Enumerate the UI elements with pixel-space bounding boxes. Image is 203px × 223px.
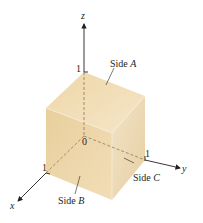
y-axis-label: y xyxy=(181,163,187,174)
y-tick-label: 1 xyxy=(145,148,150,159)
side-a-label: Side A xyxy=(110,58,137,69)
x-axis xyxy=(18,173,46,201)
side-b-label: Side B xyxy=(58,195,84,206)
z-axis-label: z xyxy=(80,10,85,21)
side-c-label: Side C xyxy=(133,172,160,183)
x-axis-label: x xyxy=(9,200,15,211)
origin-label: 0 xyxy=(82,136,87,147)
y-axis xyxy=(145,160,180,168)
cube-diagram: z 1 0 1 y 1 x Side A Side B Side C xyxy=(0,0,203,223)
x-tick-label: 1 xyxy=(42,162,47,173)
z-tick-label: 1 xyxy=(76,63,81,74)
